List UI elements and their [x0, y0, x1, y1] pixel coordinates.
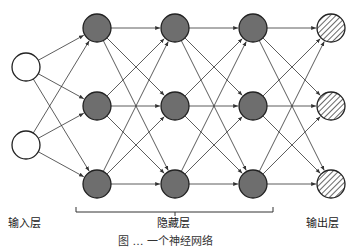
hidden-3-node [239, 170, 267, 198]
connection-arrow [33, 41, 89, 133]
hidden-2-node [161, 92, 189, 120]
input-node [12, 53, 40, 81]
hidden-3-node [239, 14, 267, 42]
hidden-layer-label: 隐藏层 [157, 214, 190, 230]
output-layer-label: 输出层 [306, 214, 339, 230]
input-layer-label: 输入层 [8, 214, 41, 230]
hidden-2-node [161, 170, 189, 198]
hidden-1-node [83, 170, 111, 198]
connection-arrow [38, 35, 84, 60]
connection-arrow [33, 79, 89, 171]
hidden-1-node [83, 14, 111, 42]
output-node [317, 92, 345, 120]
output-node [317, 14, 345, 42]
hidden-2-node [161, 14, 189, 42]
figure-caption: 图 … 一个神经网络 [118, 232, 213, 248]
connection-arrow [38, 152, 84, 177]
output-node [317, 170, 345, 198]
hidden-3-node [239, 92, 267, 120]
connection-arrow [38, 113, 84, 138]
hidden-1-node [83, 92, 111, 120]
connection-arrow [38, 74, 84, 99]
input-node [12, 131, 40, 159]
